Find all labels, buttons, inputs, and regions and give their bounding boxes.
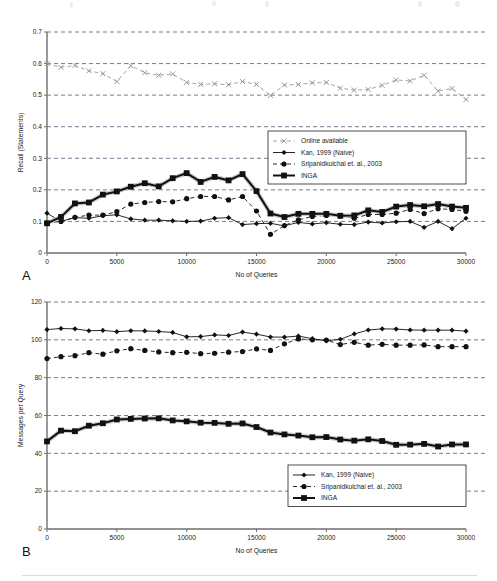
data-point xyxy=(352,331,357,336)
data-point xyxy=(365,207,371,213)
data-point xyxy=(352,222,357,227)
data-point xyxy=(407,202,413,208)
data-point xyxy=(463,344,468,349)
data-point xyxy=(323,434,329,440)
data-point xyxy=(365,436,371,442)
data-point xyxy=(86,200,92,206)
legend-label: Kan, 1999 (Naive) xyxy=(321,471,374,479)
chart-panel-b: 0204060801001200500010000150002000025000… xyxy=(0,290,497,571)
svg-text:120: 120 xyxy=(31,298,42,305)
data-point xyxy=(449,442,455,448)
data-point xyxy=(184,350,189,355)
data-point xyxy=(156,199,161,204)
data-point xyxy=(351,213,357,219)
data-point xyxy=(282,432,288,438)
data-point xyxy=(338,86,343,91)
series-0 xyxy=(45,61,469,102)
data-point xyxy=(44,356,49,361)
data-point xyxy=(170,330,175,335)
data-point xyxy=(254,208,259,213)
legend-label: INGA xyxy=(301,172,318,179)
data-point xyxy=(352,340,357,345)
svg-text:30000: 30000 xyxy=(457,258,476,265)
data-point xyxy=(212,194,217,199)
scan-artifact xyxy=(70,2,73,8)
data-point xyxy=(254,332,259,337)
data-point xyxy=(142,200,147,205)
data-point xyxy=(366,219,371,224)
svg-text:0.4: 0.4 xyxy=(33,123,42,130)
data-point xyxy=(184,334,189,339)
panel-label: A xyxy=(22,268,31,283)
data-point xyxy=(198,351,203,356)
data-point xyxy=(449,344,454,349)
data-point xyxy=(309,211,315,217)
svg-text:0.6: 0.6 xyxy=(33,60,42,67)
data-point xyxy=(268,348,273,353)
data-point xyxy=(337,213,343,219)
data-point xyxy=(394,343,399,348)
svg-text:0.1: 0.1 xyxy=(33,218,42,225)
data-point xyxy=(366,327,371,332)
data-point xyxy=(296,433,302,439)
series-line xyxy=(47,64,466,100)
data-point xyxy=(240,194,245,199)
svg-text:25000: 25000 xyxy=(387,258,406,265)
data-point xyxy=(156,329,161,334)
data-point xyxy=(407,442,413,448)
data-point xyxy=(421,203,427,209)
data-point xyxy=(463,442,469,448)
data-point xyxy=(324,337,329,342)
series-1 xyxy=(44,211,468,232)
data-point xyxy=(128,184,134,190)
data-point xyxy=(100,328,105,333)
data-point xyxy=(435,201,441,207)
data-point xyxy=(100,352,105,357)
data-point xyxy=(128,201,133,206)
figure-container: 00.10.20.30.40.50.60.7050001000015000200… xyxy=(0,0,497,581)
scan-artifact xyxy=(418,1,422,7)
data-point xyxy=(282,223,287,228)
svg-text:10000: 10000 xyxy=(177,258,196,265)
legend: Online availableKan, 1999 (Naive)Sripani… xyxy=(268,131,466,184)
data-point xyxy=(128,346,133,351)
data-point xyxy=(240,222,245,227)
data-point xyxy=(435,328,440,333)
data-point xyxy=(128,63,133,68)
svg-text:40: 40 xyxy=(35,450,43,457)
data-point xyxy=(212,174,218,180)
svg-text:0.7: 0.7 xyxy=(33,28,42,35)
svg-text:100: 100 xyxy=(31,336,42,343)
data-point xyxy=(86,350,91,355)
legend-label: INGA xyxy=(321,494,338,501)
data-point xyxy=(379,438,385,444)
data-point xyxy=(254,424,260,430)
data-point xyxy=(114,209,119,214)
data-point xyxy=(58,428,64,434)
data-point xyxy=(114,417,120,423)
data-point xyxy=(435,219,440,224)
data-point xyxy=(323,211,329,217)
svg-text:20000: 20000 xyxy=(317,534,336,541)
chart-panel-a: 00.10.20.30.40.50.60.7050001000015000200… xyxy=(0,14,497,290)
legend-label: Online available xyxy=(301,137,348,144)
data-point xyxy=(337,437,343,443)
data-point xyxy=(86,328,91,333)
data-point xyxy=(351,438,357,444)
data-point xyxy=(338,342,343,347)
svg-text:0: 0 xyxy=(45,258,49,265)
data-point xyxy=(226,421,232,427)
chart-a-svg: 00.10.20.30.40.50.60.7050001000015000200… xyxy=(0,14,497,290)
x-axis-title: No of Queries xyxy=(236,271,279,279)
data-point xyxy=(114,79,119,84)
data-point xyxy=(156,218,161,223)
data-point xyxy=(394,77,399,82)
legend-marker xyxy=(301,495,307,501)
data-point xyxy=(435,344,440,349)
data-point xyxy=(170,175,176,181)
svg-text:5000: 5000 xyxy=(109,258,124,265)
data-point xyxy=(212,332,217,337)
svg-text:25000: 25000 xyxy=(387,534,406,541)
data-point xyxy=(282,341,287,346)
data-point xyxy=(156,183,162,189)
